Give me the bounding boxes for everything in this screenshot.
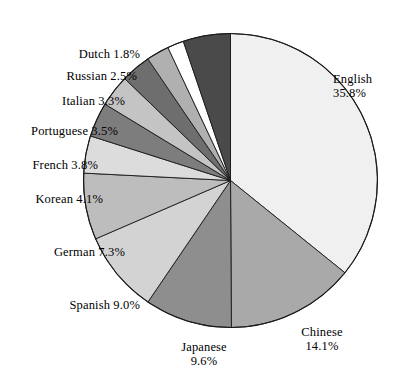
slice-label-english-value: 35.8% xyxy=(333,86,372,100)
slice-label-german: German 7.3% xyxy=(0,245,125,259)
slice-label-french: French 3.8% xyxy=(0,158,98,172)
slice-label-chinese-name: Chinese xyxy=(291,325,353,339)
slice-label-korean: Korean 4.1% xyxy=(0,192,103,206)
slice-label-portuguese: Portuguese 3.5% xyxy=(0,124,118,138)
slice-label-spanish: Spanish 9.0% xyxy=(0,298,140,312)
slice-label-russian: Russian 2.5% xyxy=(0,69,137,83)
slice-label-english: English 35.8% xyxy=(333,72,372,100)
slice-label-english-name: English xyxy=(333,72,372,86)
slice-label-dutch: Dutch 1.8% xyxy=(0,47,140,61)
slice-label-japanese-value: 9.6% xyxy=(168,354,240,368)
slice-label-chinese-value: 14.1% xyxy=(291,339,353,353)
slice-label-chinese: Chinese 14.1% xyxy=(291,325,353,353)
pie-chart: English 35.8% Chinese 14.1% Japanese 9.6… xyxy=(0,0,404,373)
slice-label-japanese-name: Japanese xyxy=(168,340,240,354)
slice-label-italian: Italian 3.3% xyxy=(0,94,125,108)
slice-label-japanese: Japanese 9.6% xyxy=(168,340,240,368)
